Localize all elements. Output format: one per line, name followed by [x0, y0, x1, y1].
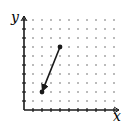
grid-dot	[68, 100, 70, 102]
grid-dot	[95, 82, 97, 84]
grid-dot	[41, 55, 43, 57]
grid-dot	[77, 100, 79, 102]
grid-dot	[59, 82, 61, 84]
grid-dot	[59, 73, 61, 75]
grid-dot	[59, 19, 61, 21]
grid-dot	[59, 100, 61, 102]
grid-dot	[32, 19, 34, 21]
grid-dot	[59, 55, 61, 57]
grid-dot	[77, 82, 79, 84]
grid-dot	[41, 37, 43, 39]
grid-dot	[86, 100, 88, 102]
grid-dot	[86, 64, 88, 66]
grid-dot	[77, 55, 79, 57]
grid-dot	[50, 19, 52, 21]
grid-dot	[113, 64, 115, 66]
grid-dot	[41, 82, 43, 84]
grid-dot	[41, 73, 43, 75]
grid-dot	[32, 91, 34, 93]
grid-dot	[68, 55, 70, 57]
grid-dot	[86, 19, 88, 21]
grid-dot	[113, 37, 115, 39]
grid-dot	[113, 28, 115, 30]
grid-dot	[32, 82, 34, 84]
grid-dot	[104, 64, 106, 66]
grid-dot	[95, 28, 97, 30]
grid-dot	[113, 91, 115, 93]
grid-dot	[77, 19, 79, 21]
grid-dot	[41, 28, 43, 30]
grid-dot	[77, 46, 79, 48]
grid-dot	[50, 37, 52, 39]
grid-dot	[59, 64, 61, 66]
grid-dot	[86, 82, 88, 84]
grid-dot	[86, 91, 88, 93]
grid-dot	[86, 55, 88, 57]
grid-dot	[50, 55, 52, 57]
grid-dot	[104, 19, 106, 21]
grid-dot	[104, 91, 106, 93]
grid-dot	[50, 73, 52, 75]
grid-dot	[104, 100, 106, 102]
grid-dot	[95, 46, 97, 48]
grid-dot	[32, 28, 34, 30]
grid-dot	[32, 55, 34, 57]
grid-dot	[104, 82, 106, 84]
grid-dot	[104, 46, 106, 48]
x-axis-label: x	[113, 108, 121, 124]
axis-ticks	[22, 20, 114, 112]
grid-dot	[113, 100, 115, 102]
grid-dot	[95, 100, 97, 102]
grid-dot	[77, 73, 79, 75]
vector-arrow	[43, 47, 60, 90]
grid-dot	[59, 91, 61, 93]
grid-dot	[68, 91, 70, 93]
grid-dot	[32, 64, 34, 66]
grid-dot	[50, 100, 52, 102]
grid-dot	[86, 37, 88, 39]
grid-dot	[59, 28, 61, 30]
grid-dot	[104, 73, 106, 75]
vector-diagram: x y	[0, 0, 124, 126]
grid-dot	[50, 82, 52, 84]
grid-dot	[77, 64, 79, 66]
grid-dot	[113, 19, 115, 21]
vector-end-point	[40, 90, 45, 95]
grid-dot	[95, 73, 97, 75]
vector-start-point	[58, 45, 63, 50]
grid-dot	[59, 37, 61, 39]
grid-dot	[104, 28, 106, 30]
grid-dot	[113, 82, 115, 84]
grid-dot	[86, 73, 88, 75]
grid-dot	[50, 46, 52, 48]
grid-dot	[68, 73, 70, 75]
grid-dot	[86, 28, 88, 30]
grid-dot	[104, 55, 106, 57]
coordinate-plane: x y	[0, 0, 124, 126]
grid-dot	[32, 37, 34, 39]
grid-dot	[50, 64, 52, 66]
grid-dot	[68, 19, 70, 21]
grid-dot	[32, 73, 34, 75]
grid-dot	[77, 91, 79, 93]
grid-dot	[104, 37, 106, 39]
grid-dot	[68, 46, 70, 48]
grid-dot	[32, 46, 34, 48]
grid-dot	[113, 55, 115, 57]
grid-dot	[95, 37, 97, 39]
y-axis-label: y	[10, 9, 20, 25]
grid-dot	[68, 82, 70, 84]
grid-dot	[113, 73, 115, 75]
grid-dot	[77, 37, 79, 39]
grid-dot	[41, 64, 43, 66]
grid-dot	[86, 46, 88, 48]
grid-dot	[50, 91, 52, 93]
grid-dot	[41, 100, 43, 102]
grid-dot	[68, 37, 70, 39]
grid-dot	[68, 64, 70, 66]
grid-dot	[50, 28, 52, 30]
grid-dot	[95, 55, 97, 57]
grid-dot	[95, 64, 97, 66]
grid-dot	[113, 46, 115, 48]
grid-dot	[41, 19, 43, 21]
